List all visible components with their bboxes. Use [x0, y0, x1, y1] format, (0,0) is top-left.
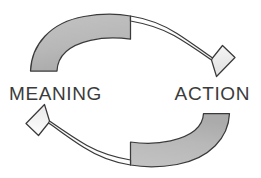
- top-arrow-head: [131, 16, 236, 77]
- bottom-arrow: [26, 105, 230, 167]
- bottom-arrow-head: [26, 105, 131, 166]
- bottom-arrow-tail: [131, 114, 230, 167]
- cycle-diagram: MEANING ACTION: [0, 0, 261, 178]
- label-action: ACTION: [175, 84, 250, 103]
- top-arrow: [31, 14, 236, 76]
- top-arrow-tail: [31, 14, 131, 71]
- label-meaning: MEANING: [9, 84, 102, 103]
